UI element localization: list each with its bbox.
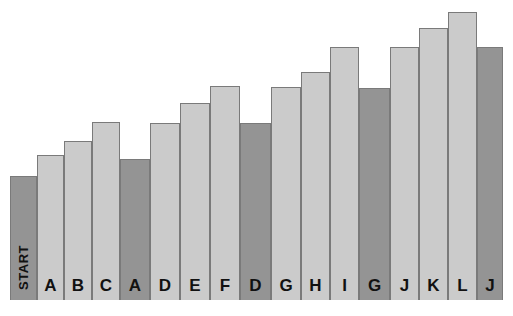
- bar-label: F: [220, 277, 230, 300]
- bar-f-7: F: [210, 86, 240, 300]
- bar-label: J: [400, 277, 409, 300]
- bar-label: L: [457, 277, 467, 300]
- bar-label: D: [159, 277, 171, 300]
- plot-area: STARTABCADEFDGHIGJKLJ: [0, 0, 513, 316]
- bar-d-8: D: [240, 123, 271, 300]
- bar-start-0: START: [10, 176, 37, 300]
- bar-label: START: [17, 245, 30, 290]
- bar-l-15: L: [448, 12, 477, 300]
- bar-label: I: [342, 277, 347, 300]
- bar-label: J: [485, 277, 494, 300]
- bar-j-16: J: [477, 47, 503, 300]
- bar-label: G: [368, 277, 381, 300]
- bar-label: C: [100, 277, 112, 300]
- bar-c-3: C: [92, 122, 120, 300]
- bar-label: B: [72, 277, 84, 300]
- bar-label: K: [427, 277, 439, 300]
- bar-b-2: B: [64, 141, 92, 300]
- bar-label: G: [279, 277, 292, 300]
- bar-label: E: [189, 277, 200, 300]
- bar-label: A: [129, 277, 141, 300]
- bar-i-11: I: [330, 47, 359, 300]
- bar-label: D: [249, 277, 261, 300]
- bar-h-10: H: [301, 72, 330, 300]
- bar-e-6: E: [180, 103, 210, 300]
- bar-k-14: K: [419, 28, 448, 300]
- bar-label: H: [309, 277, 321, 300]
- bar-j-13: J: [390, 47, 419, 300]
- bar-a-4: A: [120, 159, 150, 300]
- bar-d-5: D: [150, 123, 180, 300]
- bar-a-1: A: [37, 155, 64, 300]
- bar-g-12: G: [359, 88, 390, 300]
- bar-g-9: G: [271, 87, 301, 300]
- bar-chart: STARTABCADEFDGHIGJKLJ: [0, 0, 513, 316]
- bar-label: A: [44, 277, 56, 300]
